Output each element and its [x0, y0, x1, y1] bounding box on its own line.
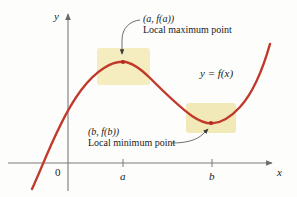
callout-local-minimum: (b, f(b)) Local minimum point	[88, 126, 175, 148]
function-label: y = f(x)	[200, 67, 233, 79]
tick-label-a: a	[120, 170, 126, 182]
point-local-maximum	[121, 60, 125, 64]
callout-minimum-caption: Local minimum point	[88, 137, 175, 148]
x-axis-label: x	[277, 166, 282, 178]
point-local-minimum	[209, 121, 213, 125]
origin-label: 0	[55, 166, 61, 178]
y-axis-label: y	[54, 10, 59, 22]
callout-local-maximum: (a, f(a)) Local maximum point	[143, 13, 232, 35]
callout-maximum-caption: Local maximum point	[143, 24, 232, 35]
callout-minimum-coord: (b, f(b))	[88, 126, 175, 137]
callout-maximum-coord: (a, f(a))	[143, 13, 232, 24]
tick-label-b: b	[209, 170, 215, 182]
figure-local-extrema: y x 0 a b y = f(x) (a, f(a)) Local maxim…	[0, 0, 297, 197]
